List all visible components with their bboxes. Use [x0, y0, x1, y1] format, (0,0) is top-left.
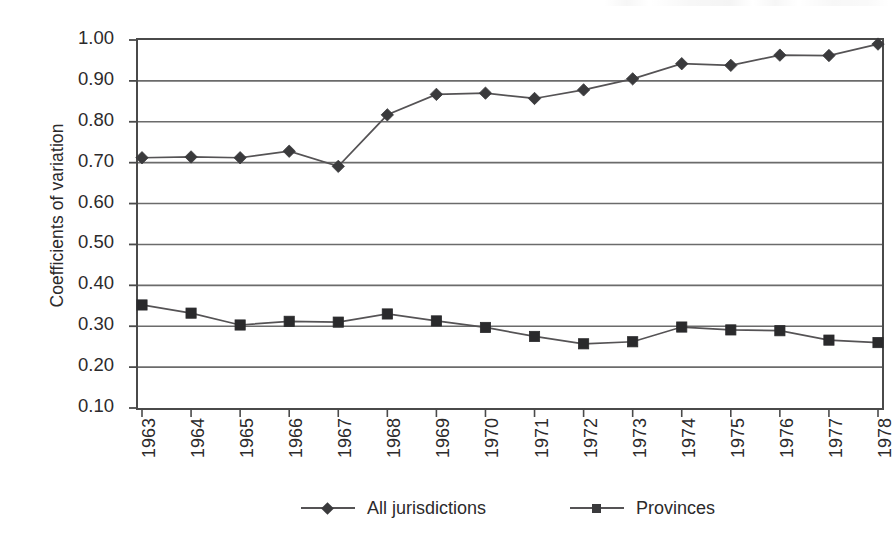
data-point-marker	[677, 322, 687, 332]
y-axis-tick-label: 1.00	[48, 29, 114, 48]
data-point-marker	[626, 73, 638, 85]
data-point-marker	[628, 337, 638, 347]
legend-label: Provinces	[636, 498, 715, 519]
x-axis-tick-label: 1971	[533, 378, 551, 458]
data-point-marker	[579, 339, 589, 349]
y-axis-tick-label: 0.40	[48, 274, 114, 293]
x-axis-tick-label: 1974	[680, 378, 698, 458]
scan-artifact	[604, 0, 890, 6]
square-marker-icon	[570, 501, 624, 515]
data-point-marker	[725, 59, 737, 71]
data-point-marker	[137, 300, 147, 310]
data-point-marker	[234, 152, 246, 164]
data-point-marker	[284, 316, 294, 326]
data-point-marker	[823, 49, 835, 61]
data-point-marker	[873, 337, 883, 347]
y-axis-tick-label: 0.60	[48, 192, 114, 211]
x-axis-tick-label: 1966	[287, 378, 305, 458]
chart-legend: All jurisdictionsProvinces	[136, 488, 880, 528]
x-axis-tick-label: 1970	[483, 378, 501, 458]
diamond-marker-icon	[301, 501, 355, 515]
data-point-marker	[235, 320, 245, 330]
data-point-marker	[430, 88, 442, 100]
data-series-layer	[138, 40, 882, 408]
series-line	[142, 305, 878, 344]
x-axis-tick-label: 1972	[582, 378, 600, 458]
y-axis-tick-labels: 1.000.900.800.700.600.500.400.300.200.10	[48, 0, 114, 539]
x-axis-tick-label: 1964	[189, 378, 207, 458]
data-point-marker	[824, 335, 834, 345]
data-point-marker	[431, 316, 441, 326]
plot-area	[136, 38, 884, 410]
x-axis-tick-label: 1978	[876, 378, 892, 458]
y-axis-tick-label: 0.20	[48, 356, 114, 375]
data-point-marker	[529, 331, 539, 341]
y-axis-tick-label: 0.50	[48, 233, 114, 252]
data-point-marker	[185, 151, 197, 163]
x-axis-tick-label: 1965	[238, 378, 256, 458]
x-axis-tick-label: 1963	[140, 378, 158, 458]
data-point-marker	[480, 322, 490, 332]
x-axis-tick-label: 1967	[336, 378, 354, 458]
legend-entry[interactable]: Provinces	[570, 498, 715, 519]
data-point-marker	[528, 92, 540, 104]
legend-entry[interactable]: All jurisdictions	[301, 498, 486, 519]
chart-figure: Coefficients of variation 1.000.900.800.…	[0, 0, 892, 539]
y-axis-tick-label: 0.30	[48, 315, 114, 334]
y-axis-tick-label: 0.90	[48, 70, 114, 89]
x-axis-tick-label: 1975	[729, 378, 747, 458]
x-axis-tick-label: 1969	[434, 378, 452, 458]
y-axis-tick-label: 0.70	[48, 151, 114, 170]
data-point-marker	[872, 38, 884, 50]
legend-marker	[592, 504, 601, 513]
data-point-marker	[382, 309, 392, 319]
x-axis-tick-label: 1977	[827, 378, 845, 458]
data-point-marker	[726, 325, 736, 335]
data-point-marker	[577, 84, 589, 96]
data-point-marker	[775, 326, 785, 336]
data-point-marker	[136, 152, 148, 164]
legend-marker	[321, 502, 334, 515]
series-line	[142, 44, 878, 166]
legend-label: All jurisdictions	[367, 498, 486, 519]
data-point-marker	[479, 87, 491, 99]
data-point-marker	[676, 58, 688, 70]
data-point-marker	[333, 317, 343, 327]
data-point-marker	[774, 49, 786, 61]
x-axis-tick-label: 1973	[631, 378, 649, 458]
data-point-marker	[186, 308, 196, 318]
x-axis-tick-label: 1968	[385, 378, 403, 458]
y-axis-tick-label: 0.80	[48, 111, 114, 130]
x-axis-tick-label: 1976	[778, 378, 796, 458]
y-axis-tick-label: 0.10	[48, 397, 114, 416]
data-point-marker	[283, 145, 295, 157]
